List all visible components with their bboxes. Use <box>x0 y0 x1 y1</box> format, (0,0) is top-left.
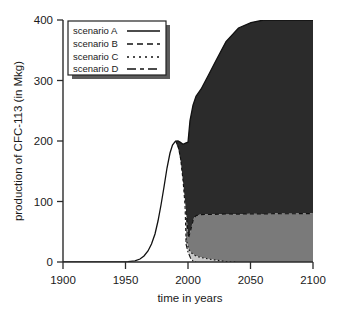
x-tick-label-1900: 1900 <box>50 274 76 286</box>
legend: scenario A scenario B scenario C scenari… <box>68 21 170 79</box>
y-tick-label-100: 100 <box>34 196 53 208</box>
x-axis-title: time in years <box>157 292 222 304</box>
y-tick-label-400: 400 <box>34 14 53 26</box>
y-axis-ticks <box>57 20 63 262</box>
y-tick-label-200: 200 <box>34 135 53 147</box>
cfc-production-chart: 0 100 200 300 400 1900 1950 2000 2050 21… <box>0 0 344 317</box>
legend-label-scenario-b: scenario B <box>73 38 118 49</box>
legend-label-scenario-d: scenario D <box>73 63 119 74</box>
legend-label-scenario-a: scenario A <box>73 25 118 36</box>
x-tick-label-2000: 2000 <box>175 274 201 286</box>
chart-figure: 0 100 200 300 400 1900 1950 2000 2050 21… <box>0 0 344 317</box>
y-tick-label-300: 300 <box>34 75 53 87</box>
x-tick-label-2050: 2050 <box>238 274 264 286</box>
y-axis-title: production of CFC-113 (in Mkg) <box>12 61 24 221</box>
band-b-to-c <box>186 211 313 262</box>
x-tick-label-2100: 2100 <box>300 274 326 286</box>
y-tick-label-0: 0 <box>47 256 53 268</box>
x-axis-ticks <box>63 262 313 269</box>
x-tick-label-1950: 1950 <box>113 274 139 286</box>
legend-label-scenario-c: scenario C <box>73 51 119 62</box>
